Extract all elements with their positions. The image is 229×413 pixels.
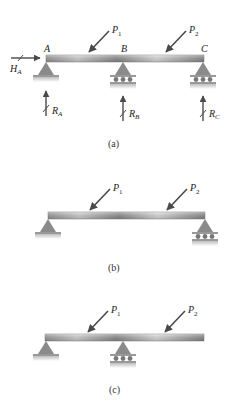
load-p2-arrow: P2 [165, 304, 198, 332]
load-p1-arrow: P1 [89, 24, 122, 52]
load-p2-label: P [188, 24, 195, 35]
pin-support-a [33, 62, 59, 82]
roller-support-b [110, 62, 136, 89]
svg-text:RB: RB [128, 108, 140, 121]
caption-c: (c) [109, 384, 120, 396]
beam-diagrams: A B C P1 P2 HA RA RB [0, 0, 229, 413]
reaction-rb-label: R [128, 108, 135, 119]
svg-text:HA: HA [9, 63, 22, 76]
panel-c: P1 P2 (c) [33, 304, 204, 396]
load-p2-arrow: P2 [167, 182, 200, 210]
pin-support-left [33, 341, 59, 361]
load-p1-label: P [112, 182, 119, 193]
svg-text:RC: RC [208, 108, 220, 121]
svg-text:P1: P1 [110, 304, 121, 318]
roller-support-c [190, 62, 216, 89]
load-p2-label: P [187, 304, 194, 315]
panel-b: P1 P2 (b) [35, 182, 218, 274]
caption-a: (a) [108, 138, 119, 150]
reaction-rc-label: R [208, 108, 215, 119]
load-p1-arrow: P1 [88, 304, 121, 332]
roller-support-right [192, 219, 218, 246]
svg-text:P1: P1 [112, 182, 123, 196]
point-label-b: B [121, 43, 127, 54]
pin-support-left [35, 219, 61, 239]
load-p1-label: P [110, 304, 117, 315]
reaction-ha-arrow: HA [9, 55, 40, 76]
load-p2-arrow: P2 [166, 24, 199, 52]
panel-a: A B C P1 P2 HA RA RB [9, 24, 220, 150]
reaction-ra-label: R [51, 105, 58, 116]
reaction-rc-arrow: RC [200, 96, 220, 121]
point-label-a: A [43, 43, 51, 54]
svg-text:P2: P2 [189, 182, 200, 196]
reaction-rb-arrow: RB [120, 96, 140, 121]
svg-text:RA: RA [51, 105, 63, 118]
point-label-c: C [201, 43, 208, 54]
load-p1-arrow: P1 [90, 182, 123, 210]
load-p1-label: P [111, 24, 118, 35]
reaction-ra-arrow: RA [43, 91, 63, 118]
caption-b: (b) [108, 262, 120, 274]
load-p2-label: P [189, 182, 196, 193]
svg-text:P2: P2 [188, 24, 199, 38]
svg-text:P1: P1 [111, 24, 122, 38]
svg-text:P2: P2 [187, 304, 198, 318]
roller-support-middle [110, 341, 136, 368]
